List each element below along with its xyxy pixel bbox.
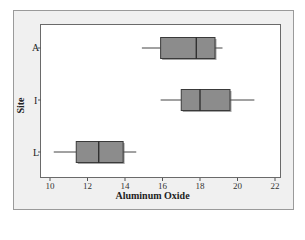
box-a	[161, 38, 215, 59]
x-tick-label: 18	[196, 181, 205, 191]
y-tick-label-a: A	[32, 42, 39, 53]
x-tick-label: 12	[83, 181, 92, 191]
x-tick-label: 10	[46, 181, 55, 191]
y-axis-title: Site	[15, 97, 26, 113]
x-tick-label: 22	[271, 181, 280, 191]
y-tick-label-l: L	[33, 147, 39, 158]
x-tick-label: 20	[233, 181, 242, 191]
x-tick-label: 14	[121, 181, 130, 191]
box-l	[76, 142, 123, 163]
box-i	[181, 90, 230, 111]
x-axis-title: Aluminum Oxide	[0, 190, 305, 201]
y-tick-label-i: I	[34, 95, 37, 106]
x-tick-label: 16	[158, 181, 167, 191]
